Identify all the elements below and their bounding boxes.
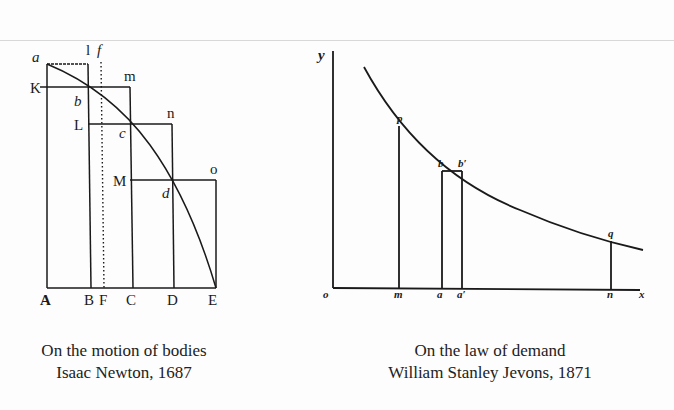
label-M: M (113, 173, 126, 189)
label-x: x (638, 288, 645, 300)
label-D: D (167, 292, 178, 308)
jevons-caption: On the law of demand William Stanley Jev… (340, 340, 640, 384)
label-q: q (608, 227, 614, 239)
label-m: m (394, 288, 403, 300)
label-origin: o (323, 288, 329, 300)
label-m: m (124, 68, 136, 84)
label-d: d (162, 185, 170, 201)
label-o: o (210, 161, 218, 177)
label-a-prime: a′ (457, 288, 466, 300)
label-a: a (437, 288, 443, 300)
label-b: b (74, 93, 82, 109)
label-n: n (167, 105, 175, 121)
label-f: f (97, 42, 103, 58)
label-K: K (30, 80, 41, 96)
label-b: b (438, 157, 444, 169)
newton-caption-title: On the motion of bodies (0, 340, 248, 362)
jevons-caption-title: On the law of demand (340, 340, 640, 362)
newton-caption-author: Isaac Newton, 1687 (0, 362, 248, 384)
label-a: a (32, 49, 40, 65)
jevons-diagram (333, 51, 643, 290)
label-A: A (40, 292, 51, 308)
label-c: c (119, 125, 126, 141)
label-p: p (396, 112, 403, 124)
jevons-caption-author: William Stanley Jevons, 1871 (340, 362, 640, 384)
label-B: B (84, 292, 94, 308)
label-b-prime: b′ (458, 157, 467, 169)
label-n: n (607, 288, 613, 300)
label-F: F (99, 292, 107, 308)
newton-caption: On the motion of bodies Isaac Newton, 16… (0, 340, 248, 384)
label-l: l (86, 42, 90, 58)
label-y: y (316, 47, 325, 63)
label-C: C (126, 292, 136, 308)
label-L: L (74, 117, 83, 133)
label-E: E (208, 292, 217, 308)
